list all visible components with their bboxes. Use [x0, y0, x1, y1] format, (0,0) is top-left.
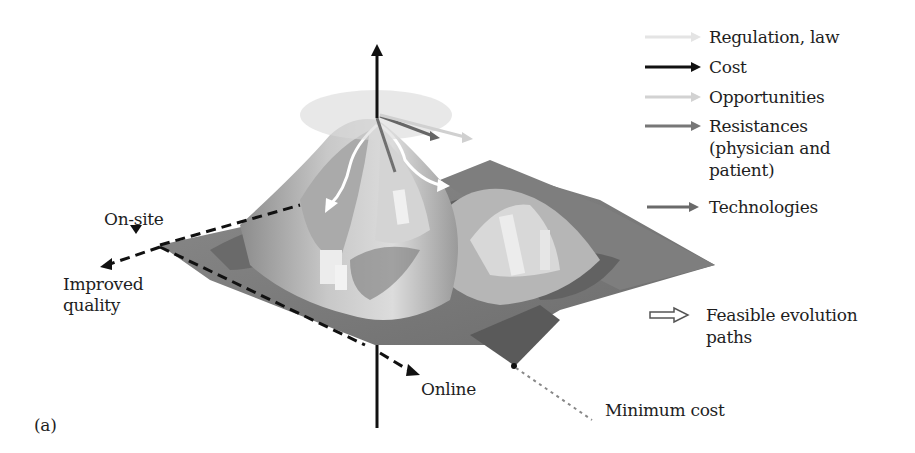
legend-item-regulation: Regulation, law	[645, 26, 839, 48]
legend-label-line2: paths	[706, 326, 857, 348]
legend-label: Resistances	[709, 115, 830, 137]
legend-label: Cost	[709, 56, 747, 78]
legend-label: Feasible evolution	[706, 304, 857, 326]
axis-label-online: Online	[421, 378, 476, 400]
legend-label: Regulation, law	[709, 26, 839, 48]
online-axis	[380, 353, 410, 371]
legend-item-resistances: Resistances (physician and patient)	[645, 115, 830, 181]
figure: On-site Improved quality Online Minimum …	[0, 0, 915, 453]
legend-item-feasible-paths: Feasible evolution paths	[648, 304, 857, 348]
minimum-cost-leader	[516, 368, 592, 420]
legend-item-cost: Cost	[645, 56, 747, 78]
black-arrow-icon	[645, 56, 703, 78]
legend-item-technologies: Technologies	[645, 196, 818, 218]
axis-label-on-site: On-site	[104, 208, 164, 230]
axis-label-improved-quality-line1: Improved	[63, 273, 143, 295]
improved-quality-axis	[110, 247, 160, 264]
light-arrow-icon	[645, 26, 703, 48]
legend-label-line3: patient)	[709, 159, 830, 181]
light-gray-arrow-icon	[645, 86, 703, 108]
annotation-minimum-cost: Minimum cost	[605, 399, 725, 421]
panel-label: (a)	[34, 414, 57, 436]
gray-arrow-icon	[645, 115, 703, 137]
legend-label: Opportunities	[709, 86, 824, 108]
legend-label: Technologies	[709, 196, 818, 218]
dark-gray-arrow-icon	[645, 196, 703, 218]
legend-item-opportunities: Opportunities	[645, 86, 824, 108]
legend-label-line2: (physician and	[709, 137, 830, 159]
hollow-arrow-icon	[648, 304, 692, 326]
axis-label-improved-quality-line2: quality	[63, 294, 120, 316]
